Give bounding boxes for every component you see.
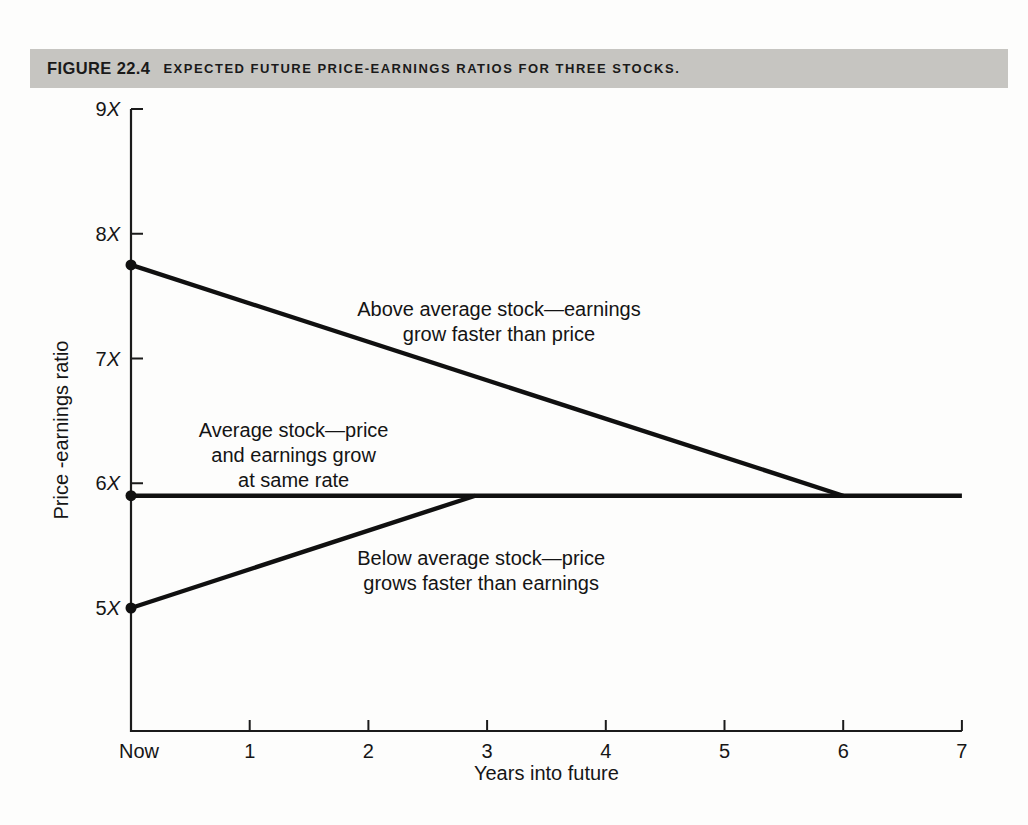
y-tick-label: 6X — [96, 472, 121, 494]
x-tick-label: 4 — [600, 740, 611, 762]
annotation-below-average-stock: Below average stock—price — [357, 547, 605, 569]
y-tick-label: 8X — [96, 223, 121, 245]
data-point-dot-average-stock — [126, 490, 137, 501]
y-tick-label: 9X — [96, 98, 121, 120]
x-tick-label: 1 — [244, 740, 255, 762]
x-axis-title: Years into future — [474, 762, 619, 784]
annotation-above-average-stock: grow faster than price — [403, 323, 595, 345]
data-point-dot-above-average-stock — [126, 259, 137, 270]
x-tick-label: Now — [119, 740, 160, 762]
x-tick-label: 3 — [482, 740, 493, 762]
annotation-below-average-stock: grows faster than earnings — [363, 572, 599, 594]
x-tick-label: 2 — [363, 740, 374, 762]
annotation-average-stock: at same rate — [238, 469, 349, 491]
annotation-average-stock: Average stock—price — [199, 419, 389, 441]
y-tick-label: 7X — [96, 348, 121, 370]
x-tick-label: 7 — [956, 740, 967, 762]
y-tick-label: 5X — [96, 597, 121, 619]
x-tick-label: 5 — [719, 740, 730, 762]
x-tick-label: 6 — [838, 740, 849, 762]
annotation-above-average-stock: Above average stock—earnings — [357, 298, 641, 320]
annotation-average-stock: and earnings grow — [211, 444, 376, 466]
pe-ratio-chart: 9X8X7X6X5XNow1234567Above average stock—… — [0, 0, 1028, 825]
data-point-dot-below-average-stock — [126, 603, 137, 614]
y-axis-title: Price -earnings ratio — [50, 341, 72, 520]
figure-panel: FIGURE 22.4 Expected future price-earnin… — [0, 0, 1028, 825]
